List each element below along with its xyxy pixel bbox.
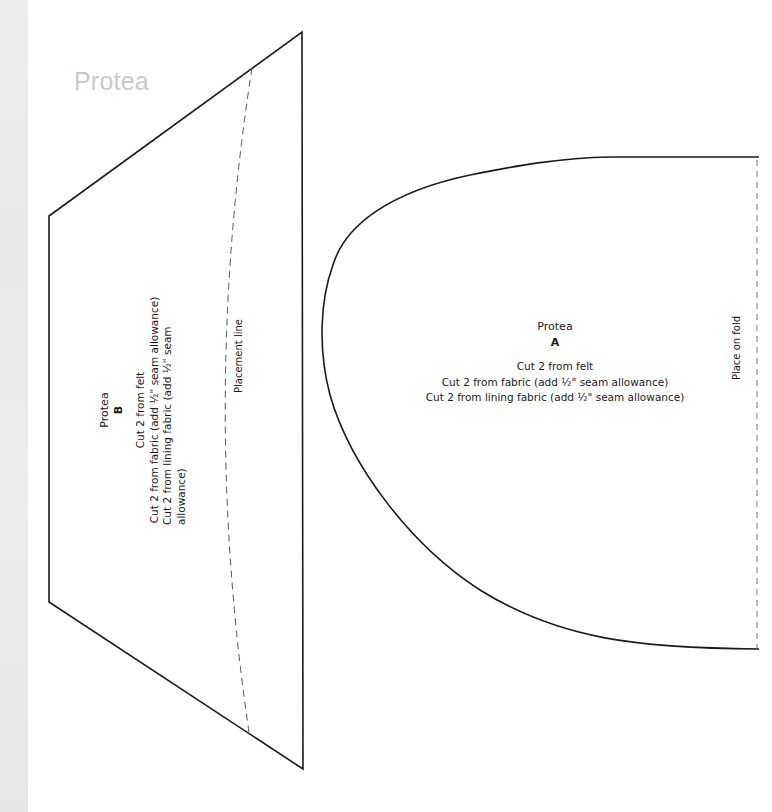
piece-b-name: Protea (98, 392, 112, 427)
piece-b-letter: B (112, 406, 126, 414)
piece-a-instruction: Cut 2 from felt (517, 359, 593, 375)
piece-a-instruction: Cut 2 from fabric (add ½" seam allowance… (442, 375, 669, 391)
piece-a-label: Protea A Cut 2 from felt Cut 2 from fabr… (395, 319, 715, 406)
piece-b-label: Protea B Cut 2 from felt Cut 2 from fabr… (98, 295, 218, 525)
piece-b-instruction: Cut 2 from fabric (add ½" seam allowance… (148, 297, 162, 524)
piece-a-name: Protea (537, 319, 572, 335)
piece-a-instruction: Cut 2 from lining fabric (add ½" seam al… (426, 390, 685, 406)
piece-a-letter: A (551, 335, 560, 351)
piece-b-instruction: Cut 2 from felt (134, 372, 148, 448)
fold-line-label: Place on fold (731, 308, 745, 388)
placement-line-label: Placement line (233, 301, 247, 411)
piece-b-instruction: Cut 2 from lining fabric (add ½" seam al… (161, 295, 188, 525)
